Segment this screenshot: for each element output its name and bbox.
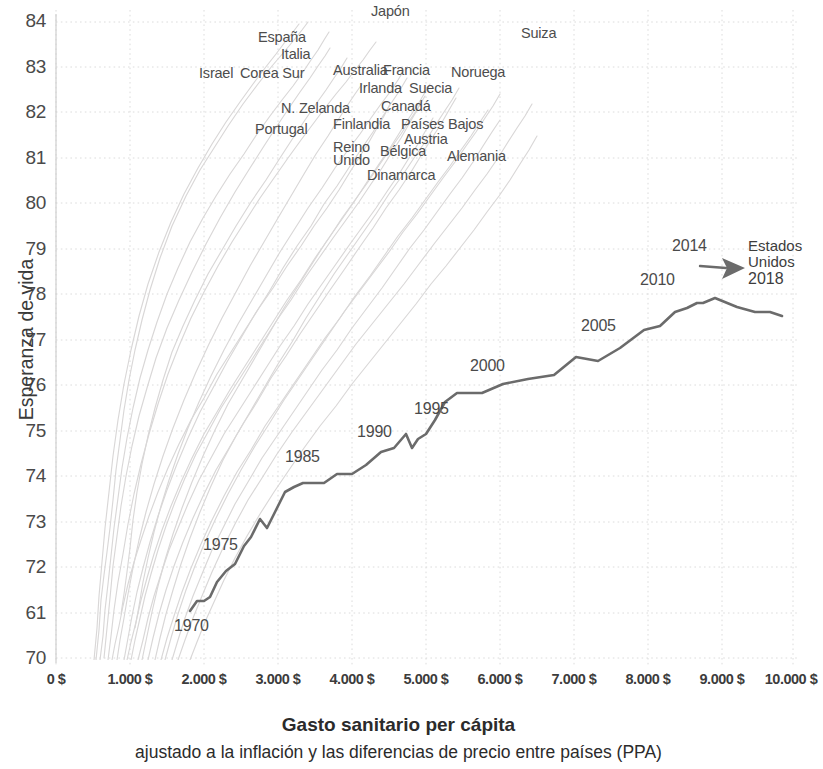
country-label-paises-bajos: Países Bajos [401, 117, 483, 132]
x-tick-4000: 4.000 $ [318, 671, 386, 687]
year-label-1995: 1995 [414, 400, 449, 418]
country-label-australia: Australia [333, 63, 388, 78]
country-label-francia: Francia [383, 63, 430, 78]
y-tick-73: 73 [2, 511, 46, 533]
y-axis-title: Esperanza de vida [15, 220, 38, 460]
country-label-noruega: Noruega [451, 65, 505, 80]
country-label-finlandia: Finlandia [333, 117, 390, 132]
y-tick-84: 84 [2, 10, 46, 32]
y-tick-72: 72 [2, 556, 46, 578]
year-label-1985: 1985 [285, 448, 320, 466]
y-tick-74: 74 [2, 465, 46, 487]
country-label-espana: España [258, 30, 306, 45]
x-tick-8000: 8.000 $ [614, 671, 682, 687]
country-label-japon: Japón [371, 4, 410, 19]
x-tick-2000: 2.000 $ [170, 671, 238, 687]
x-tick-10000: 10.000 $ [753, 671, 823, 687]
x-tick-1000: 1.000 $ [96, 671, 164, 687]
country-label-suecia: Suecia [409, 81, 452, 96]
x-tick-5000: 5.000 $ [392, 671, 460, 687]
us-trajectory-line [190, 298, 782, 611]
x-tick-0: 0 $ [26, 671, 86, 687]
country-label-corea-sur: Corea Sur [240, 66, 304, 81]
y-tick-83: 83 [2, 56, 46, 78]
x-tick-6000: 6.000 $ [466, 671, 534, 687]
year-label-2014: 2014 [672, 237, 707, 255]
country-label-irlanda: Irlanda [359, 81, 402, 96]
country-label-italia: Italia [281, 47, 310, 62]
country-label-portugal: Portugal [255, 122, 307, 137]
year-label-1970: 1970 [174, 617, 209, 635]
x-tick-3000: 3.000 $ [244, 671, 312, 687]
country-label-alemania: Alemania [447, 149, 506, 164]
y-tick-80: 80 [2, 192, 46, 214]
us-arrow-shaft [700, 266, 726, 268]
country-label-canada: Canadá [381, 99, 431, 114]
us-end-label-group: Estados Unidos 2018 [748, 238, 802, 288]
x-tick-9000: 9.000 $ [688, 671, 756, 687]
year-label-2000: 2000 [470, 357, 505, 375]
y-tick-71: 61 [2, 602, 46, 624]
x-axis-subtitle: ajustado a la inflación y las diferencia… [0, 742, 797, 763]
year-label-1990: 1990 [357, 423, 392, 441]
country-label-israel: Israel [199, 66, 233, 81]
y-tick-81: 81 [2, 147, 46, 169]
year-label-1975: 1975 [203, 536, 238, 554]
country-label-belgica: Bélgica [380, 144, 426, 159]
us-end-label-line1: Estados [748, 238, 802, 254]
year-label-2005: 2005 [581, 317, 616, 335]
country-label-dinamarca: Dinamarca [367, 168, 435, 183]
y-tick-82: 82 [2, 101, 46, 123]
country-label-n-zelanda: N. Zelanda [281, 101, 350, 116]
x-axis-title: Gasto sanitario per cápita [0, 714, 797, 736]
year-label-2010: 2010 [640, 271, 675, 289]
us-end-label-year: 2018 [748, 270, 802, 287]
y-tick-70: 70 [2, 647, 46, 669]
us-end-label-line2: Unidos [748, 254, 802, 270]
country-label-unido: Unido [333, 153, 370, 168]
x-tick-7000: 7.000 $ [540, 671, 608, 687]
country-label-suiza: Suiza [521, 26, 556, 41]
